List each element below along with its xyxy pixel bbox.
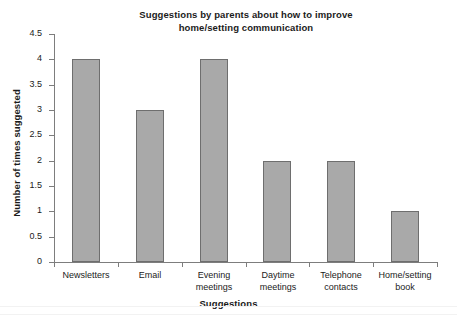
x-axis-title: Suggestions (0, 298, 457, 309)
y-axis-tick-label: 2 (37, 155, 42, 165)
chart-title: Suggestions by parents about how to impr… (96, 8, 396, 34)
x-axis-tick (309, 262, 310, 267)
x-axis-tick-label: Eveningmeetings (182, 270, 246, 293)
y-axis-tick-label: 1.5 (29, 180, 42, 190)
x-axis-tick (118, 262, 119, 267)
y-axis-tick-label: 4.5 (29, 28, 42, 38)
x-axis-tick-label-line: Home/setting (373, 270, 437, 282)
x-axis-tick-label: Telephonecontacts (309, 270, 373, 293)
y-axis-tick: 4 (49, 59, 54, 60)
x-axis-tick-label-line: Email (118, 270, 182, 282)
scan-artifact-band (0, 306, 457, 307)
chart-screenshot: Suggestions by parents about how to impr… (0, 0, 457, 325)
y-axis-tick: 3 (49, 110, 54, 111)
y-axis-title-container: Number of times suggested (6, 40, 26, 265)
x-axis-tick-label-line: book (373, 282, 437, 294)
x-axis-tick (182, 262, 183, 267)
bar (200, 59, 228, 262)
x-axis-tick (437, 262, 438, 267)
x-axis-tick-label-line: Telephone (309, 270, 373, 282)
y-axis-tick-label: 3.5 (29, 79, 42, 89)
x-axis-tick-label: Daytimemeetings (246, 270, 310, 293)
x-axis-tick (246, 262, 247, 267)
y-axis-line (54, 34, 55, 263)
y-axis-tick-label: 1 (37, 205, 42, 215)
x-axis-tick-label: Email (118, 270, 182, 282)
bar (391, 211, 419, 262)
y-axis-tick: 1 (49, 211, 54, 212)
bar (72, 59, 100, 262)
y-axis-tick: 4.5 (49, 34, 54, 35)
chart-title-line-1: Suggestions by parents about how to impr… (96, 8, 396, 21)
scan-artifact-band (0, 314, 457, 315)
chart-title-line-2: home/setting communication (96, 21, 396, 34)
plot-area: 00.511.522.533.544.5 NewslettersEmailEve… (54, 34, 437, 262)
bar (263, 161, 291, 262)
y-axis-tick: 3.5 (49, 85, 54, 86)
x-axis-tick-label-line: Daytime (246, 270, 310, 282)
x-axis-tick-label-line: meetings (182, 282, 246, 294)
y-axis-tick-label: 0 (37, 256, 42, 266)
y-axis-title: Number of times suggested (11, 89, 22, 217)
bar (327, 161, 355, 262)
x-axis-tick-label: Newsletters (54, 270, 118, 282)
y-axis-tick-label: 4 (37, 53, 42, 63)
x-axis-tick-label: Home/settingbook (373, 270, 437, 293)
y-axis-tick: 0.5 (49, 237, 54, 238)
y-axis-tick-label: 0.5 (29, 231, 42, 241)
y-axis-tick-label: 3 (37, 104, 42, 114)
y-axis-tick: 2 (49, 161, 54, 162)
x-axis-tick-label-line: Evening (182, 270, 246, 282)
x-axis-tick (373, 262, 374, 267)
y-axis-tick: 1.5 (49, 186, 54, 187)
y-axis-tick: 2.5 (49, 135, 54, 136)
x-axis-tick-label-line: Newsletters (54, 270, 118, 282)
y-axis-tick-label: 2.5 (29, 129, 42, 139)
x-axis-tick-label-line: contacts (309, 282, 373, 294)
x-axis-tick (54, 262, 55, 267)
bar (136, 110, 164, 262)
x-axis-tick-label-line: meetings (246, 282, 310, 294)
